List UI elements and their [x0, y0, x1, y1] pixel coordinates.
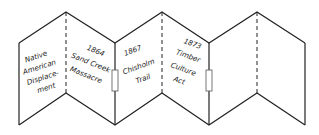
tab-slot: [112, 70, 118, 91]
svg-text:Act: Act: [171, 74, 187, 87]
svg-text:1867: 1867: [123, 43, 144, 58]
panel-2-label: 1864 Sand Creek Massacre: [65, 39, 117, 87]
panel-4-label: 1873 Timber Culture Act: [165, 35, 207, 89]
svg-text:Trail: Trail: [134, 72, 151, 86]
svg-text:Culture: Culture: [170, 60, 198, 78]
bottom-edge: [19, 93, 305, 125]
panel-1-label: Native American Displace- ment: [17, 47, 64, 98]
tab-slot: [206, 70, 212, 91]
svg-text:Chisholm: Chisholm: [121, 56, 155, 76]
svg-text:1873: 1873: [183, 36, 204, 51]
foldable-diagram: Native American Displace- ment 1864 Sand…: [0, 0, 319, 135]
panel-3-label: 1867 Chisholm Trail: [116, 41, 161, 89]
